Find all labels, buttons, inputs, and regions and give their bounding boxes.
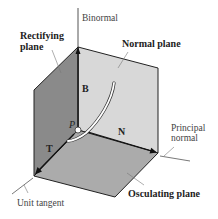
point-P-label: P	[69, 120, 75, 131]
normal-plane-label: Normal plane	[122, 39, 181, 50]
vector-N-label: N	[118, 127, 125, 138]
binormal-label: Binormal	[82, 14, 118, 24]
rectifying-plane-label: Rectifying plane	[20, 31, 64, 52]
leader-unit-tangent	[24, 185, 28, 193]
vector-T-label: T	[46, 144, 53, 155]
principal-normal-label: Principal normal	[171, 124, 205, 144]
point-P-marker	[75, 127, 81, 133]
unit-tangent-label: Unit tangent	[17, 199, 64, 209]
leader-principal-normal	[164, 147, 174, 156]
unit-tangent-axis-line	[12, 178, 33, 194]
principal-normal-axis-line	[160, 156, 190, 161]
vector-B-label: B	[82, 84, 89, 95]
osculating-plane-label: Osculating plane	[128, 189, 200, 200]
